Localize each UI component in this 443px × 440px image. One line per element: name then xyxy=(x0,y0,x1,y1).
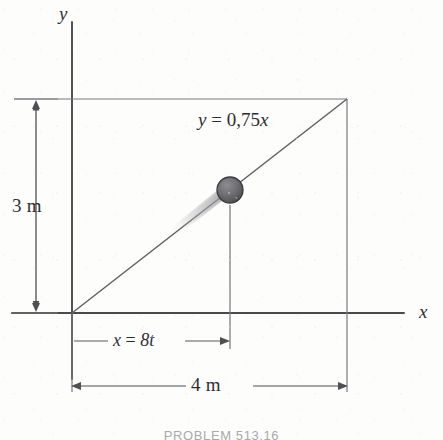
figure-canvas: y x y = 0,75x 3 m 4 m x = 8t PROBLEM 513… xyxy=(0,0,443,440)
figure-caption: PROBLEM 513.16 xyxy=(0,428,443,440)
x8t-operator: = xyxy=(121,330,140,350)
diagram-svg xyxy=(0,0,443,440)
equation-rhs-variable: x xyxy=(260,109,268,130)
dimension-x8t-arrow-right xyxy=(220,337,230,345)
dimension-x8t-label: x = 8t xyxy=(113,331,154,349)
equation-rhs-number: 0,75 xyxy=(227,109,260,130)
equation-label: y = 0,75x xyxy=(198,110,268,129)
guide-lines xyxy=(14,99,347,392)
x-axis-label: x xyxy=(419,302,427,321)
x8t-lhs: x xyxy=(113,330,121,350)
dimension-3m-arrow-bottom xyxy=(32,303,40,312)
x8t-rhs: 8t xyxy=(140,330,154,350)
particle-ball xyxy=(217,177,243,203)
dimension-4m-label: 4 m xyxy=(191,375,221,394)
equation-operator: = xyxy=(206,109,226,130)
y-axis-label: y xyxy=(59,4,67,23)
dimension-3m-arrow-top xyxy=(32,100,40,109)
dimension-3m-label: 3 m xyxy=(12,196,42,215)
